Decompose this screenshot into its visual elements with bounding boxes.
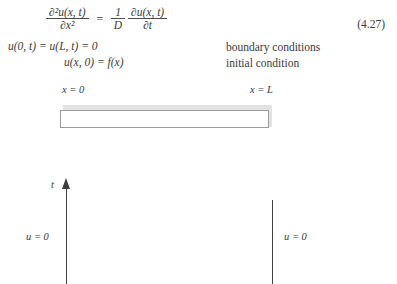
time-axis-label: t — [51, 179, 54, 190]
equation-block: ∂²u(x, t) ∂x² = 1 D ∂u(x, t) ∂t u(0, t) … — [0, 4, 397, 76]
time-derivative-numerator: ∂u(x, t) — [128, 6, 167, 19]
rod-body — [60, 110, 269, 128]
second-derivative-denominator: ∂x² — [46, 19, 89, 31]
left-boundary-condition-label: u = 0 — [26, 231, 49, 242]
boundary-conditions-label: boundary conditions — [226, 41, 320, 53]
right-boundary-condition-label: u = 0 — [284, 231, 307, 242]
time-axis-line — [66, 188, 67, 284]
space-time-domain-diagram: t u = 0 u = 0 — [0, 152, 397, 284]
diffusivity-numerator: 1 — [111, 6, 125, 19]
diffusivity-fraction: 1 D — [111, 6, 125, 32]
rod-right-endpoint-label: x = L — [250, 84, 273, 95]
rod-diagram: x = 0 x = L — [0, 82, 397, 152]
second-derivative-numerator: ∂²u(x, t) — [46, 6, 89, 19]
rod-left-endpoint-label: x = 0 — [62, 84, 84, 95]
second-derivative-fraction: ∂²u(x, t) ∂x² — [46, 6, 89, 32]
figure-page: ∂²u(x, t) ∂x² = 1 D ∂u(x, t) ∂t u(0, t) … — [0, 0, 397, 284]
boundary-condition-equation: u(0, t) = u(L, t) = 0 — [8, 40, 98, 52]
heat-equation: ∂²u(x, t) ∂x² = 1 D ∂u(x, t) ∂t — [46, 6, 167, 32]
initial-condition-label: initial condition — [226, 57, 299, 69]
equation-number: (4.27) — [357, 18, 385, 30]
right-boundary-line — [272, 200, 273, 284]
diffusivity-denominator: D — [111, 19, 125, 31]
time-derivative-denominator: ∂t — [128, 19, 167, 31]
initial-condition-equation: u(x, 0) = f(x) — [64, 56, 123, 68]
time-derivative-fraction: ∂u(x, t) ∂t — [128, 6, 167, 32]
equals-sign: = — [91, 13, 108, 25]
